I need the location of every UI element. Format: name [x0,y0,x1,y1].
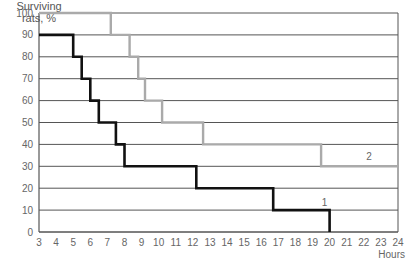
y-tick-label: 50 [22,117,34,128]
x-tick-label: 24 [392,237,404,248]
series-label: 1 [322,197,328,208]
x-tick-label: 14 [221,237,233,248]
y-tick-label: 0 [27,227,33,238]
series-1-line [39,35,330,232]
x-tick-label: 7 [105,237,111,248]
y-tick-label: 40 [22,139,34,150]
series-2-line [39,13,398,166]
x-tick-label: 6 [88,237,94,248]
x-tick-label: 17 [273,237,285,248]
y-tick-label: 100 [16,8,33,19]
x-axis-title: Hours [378,249,405,260]
y-tick-label: 70 [22,73,34,84]
x-tick-label: 13 [204,237,216,248]
x-tick-label: 20 [324,237,336,248]
x-tick-label: 5 [70,237,76,248]
x-tick-label: 3 [36,237,42,248]
x-tick-label: 21 [341,237,353,248]
y-tick-label: 20 [22,183,34,194]
x-tick-label: 16 [256,237,268,248]
x-tick-label: 11 [171,237,182,248]
x-tick-label: 19 [307,237,319,248]
x-tick-label: 23 [375,237,387,248]
series-label: 2 [366,151,372,162]
x-tick-label: 10 [153,237,165,248]
x-tick-label: 9 [139,237,145,248]
x-tick-label: 22 [358,237,370,248]
x-tick-label: 4 [53,237,59,248]
x-tick-label: 8 [122,237,128,248]
y-tick-label: 60 [22,95,34,106]
y-tick-label: 30 [22,161,34,172]
y-tick-label: 90 [22,29,34,40]
y-tick-label: 80 [22,51,34,62]
survival-chart: 0102030405060708090100345678910111213141… [0,0,416,269]
x-tick-label: 15 [239,237,251,248]
x-tick-label: 12 [187,237,199,248]
x-tick-label: 18 [290,237,302,248]
y-tick-label: 10 [22,205,34,216]
